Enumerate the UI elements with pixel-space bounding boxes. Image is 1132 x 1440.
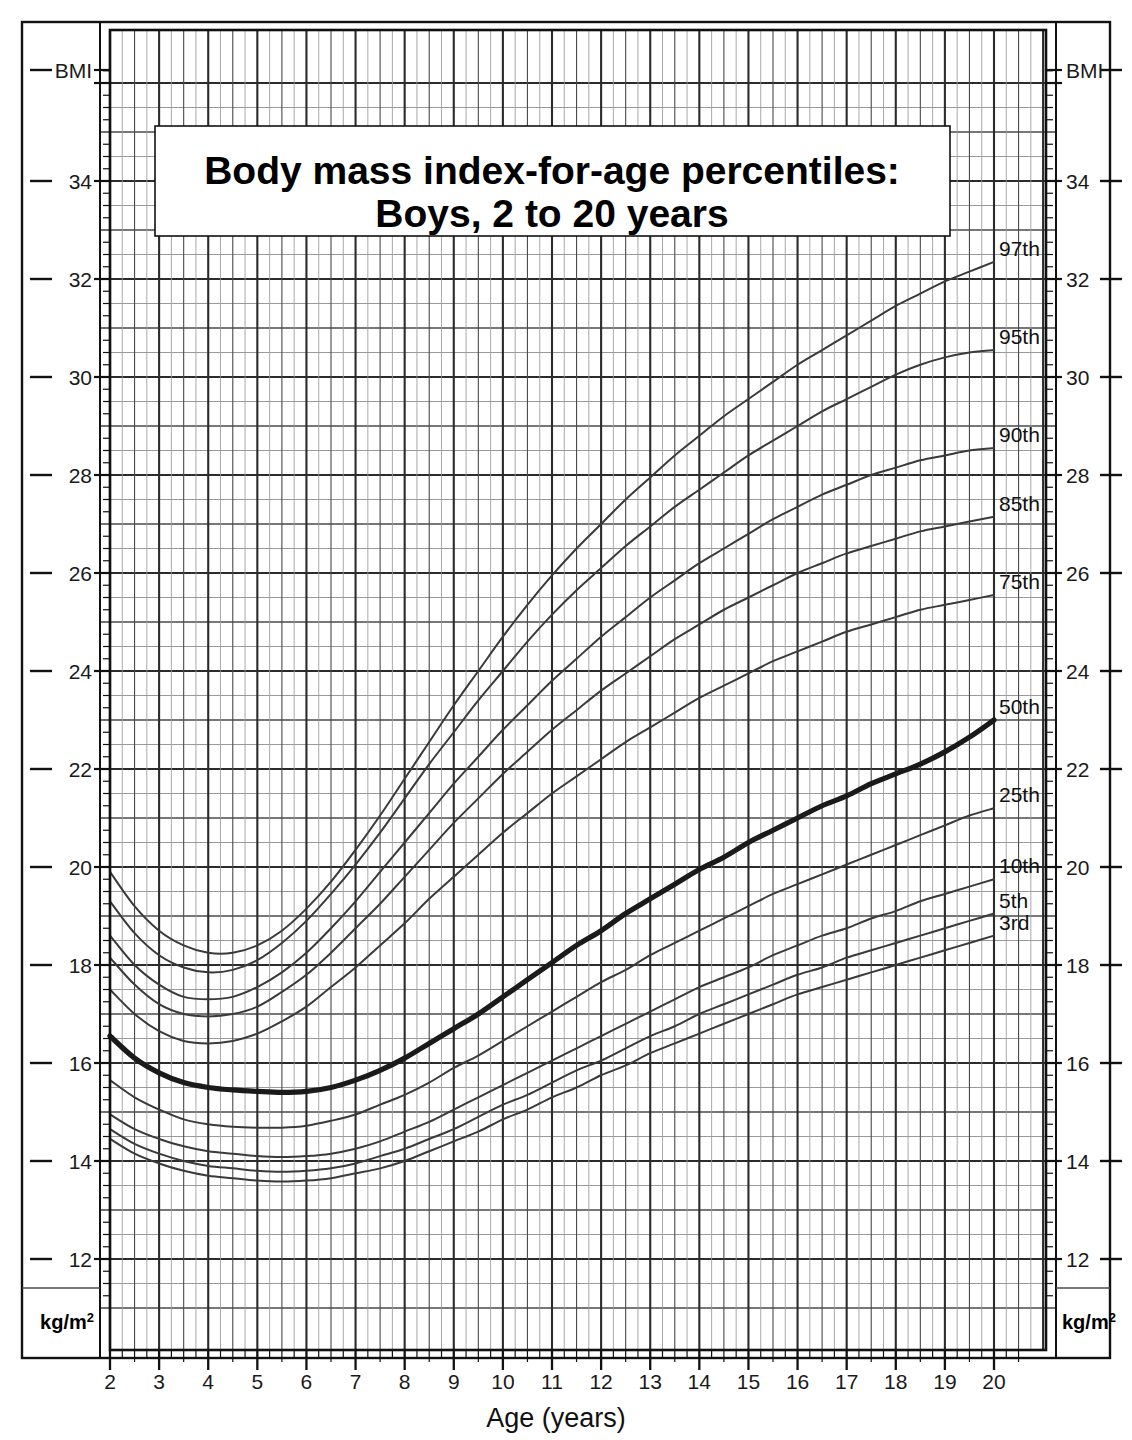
y-tick-left-32: 32 xyxy=(69,268,92,291)
chart-title-line-1: Body mass index-for-age percentiles: xyxy=(204,149,900,192)
y-tick-left-28: 28 xyxy=(69,464,92,487)
percentile-label-85th: 85th xyxy=(999,492,1040,515)
y-tick-right-22: 22 xyxy=(1066,758,1089,781)
title-block: Body mass index-for-age percentiles:Boys… xyxy=(155,126,950,236)
unit-label-left-sup: 2 xyxy=(87,1310,94,1325)
y-tick-left-18: 18 xyxy=(69,954,92,977)
chart-title-line-2: Boys, 2 to 20 years xyxy=(375,192,728,235)
bmi-growth-chart: 3434323230302828262624242222202018181616… xyxy=(0,0,1132,1440)
x-tick-11: 11 xyxy=(541,1370,563,1393)
y-tick-left-26: 26 xyxy=(69,562,92,585)
y-tick-right-16: 16 xyxy=(1066,1052,1089,1075)
x-tick-17: 17 xyxy=(835,1370,858,1393)
x-tick-5: 5 xyxy=(251,1370,263,1393)
y-tick-left-16: 16 xyxy=(69,1052,92,1075)
x-tick-14: 14 xyxy=(688,1370,712,1393)
unit-label-right-base: kg/m xyxy=(1062,1311,1109,1333)
x-tick-10: 10 xyxy=(491,1370,514,1393)
y-tick-left-24: 24 xyxy=(69,660,93,683)
x-tick-12: 12 xyxy=(589,1370,612,1393)
x-tick-20: 20 xyxy=(982,1370,1005,1393)
y-tick-right-32: 32 xyxy=(1066,268,1089,291)
unit-label-left: kg/m2 xyxy=(40,1310,94,1334)
y-tick-left-20: 20 xyxy=(69,856,92,879)
y-tick-right-24: 24 xyxy=(1066,660,1090,683)
y-tick-left-30: 30 xyxy=(69,366,92,389)
y-tick-right-28: 28 xyxy=(1066,464,1089,487)
x-tick-3: 3 xyxy=(153,1370,165,1393)
percentile-label-50th: 50th xyxy=(999,695,1040,718)
y-axis-header-left: BMI xyxy=(55,59,92,82)
percentile-label-75th: 75th xyxy=(999,570,1040,593)
x-tick-2: 2 xyxy=(104,1370,116,1393)
y-tick-left-12: 12 xyxy=(69,1248,92,1271)
y-tick-right-20: 20 xyxy=(1066,856,1089,879)
percentile-label-5th: 5th xyxy=(999,889,1028,912)
percentile-label-95th: 95th xyxy=(999,325,1040,348)
percentile-label-3rd: 3rd xyxy=(999,911,1029,934)
x-tick-6: 6 xyxy=(301,1370,313,1393)
y-tick-right-26: 26 xyxy=(1066,562,1089,585)
y-tick-left-22: 22 xyxy=(69,758,92,781)
x-tick-7: 7 xyxy=(350,1370,362,1393)
unit-label-right-sup: 2 xyxy=(1109,1310,1116,1325)
y-tick-left-14: 14 xyxy=(69,1150,93,1173)
percentile-label-25th: 25th xyxy=(999,783,1040,806)
x-tick-4: 4 xyxy=(202,1370,214,1393)
percentile-label-10th: 10th xyxy=(999,854,1040,877)
unit-label-right: kg/m2 xyxy=(1062,1310,1116,1334)
x-tick-8: 8 xyxy=(399,1370,411,1393)
y-tick-right-18: 18 xyxy=(1066,954,1089,977)
unit-label-left-base: kg/m xyxy=(40,1311,87,1333)
x-tick-15: 15 xyxy=(737,1370,760,1393)
percentile-label-90th: 90th xyxy=(999,423,1040,446)
y-tick-right-30: 30 xyxy=(1066,366,1089,389)
x-tick-19: 19 xyxy=(933,1370,956,1393)
x-tick-9: 9 xyxy=(448,1370,460,1393)
y-tick-right-12: 12 xyxy=(1066,1248,1089,1271)
y-tick-right-14: 14 xyxy=(1066,1150,1090,1173)
y-tick-right-34: 34 xyxy=(1066,170,1090,193)
x-tick-13: 13 xyxy=(639,1370,662,1393)
chart-canvas: 3434323230302828262624242222202018181616… xyxy=(0,0,1132,1440)
y-tick-left-34: 34 xyxy=(69,170,93,193)
y-axis-header-right: BMI xyxy=(1066,59,1103,82)
percentile-label-97th: 97th xyxy=(999,237,1040,260)
x-axis-title: Age (years) xyxy=(486,1403,626,1433)
x-tick-18: 18 xyxy=(884,1370,907,1393)
x-tick-16: 16 xyxy=(786,1370,809,1393)
